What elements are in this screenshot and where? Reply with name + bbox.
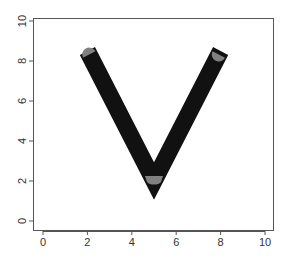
y-tick-label: 4 (16, 138, 28, 144)
x-tick-label: 0 (40, 236, 46, 248)
x-tick-label: 4 (129, 236, 135, 248)
x-tick-label: 2 (84, 236, 90, 248)
series-layer (82, 48, 225, 185)
y-tick-label: 8 (16, 58, 28, 64)
y-tick-label: 6 (16, 98, 28, 104)
y-axis: 0246810 (16, 15, 34, 224)
x-tick-label: 8 (218, 236, 224, 248)
y-tick-label: 10 (16, 15, 28, 27)
x-tick-label: 10 (259, 236, 271, 248)
y-tick-label: 2 (16, 178, 28, 184)
x-tick-label: 6 (173, 236, 179, 248)
thick-black-line (87, 51, 220, 181)
y-tick-label: 0 (16, 218, 28, 224)
plot-box (34, 19, 274, 231)
x-axis: 0246810 (40, 231, 271, 248)
line-plot: 0246810 0246810 (0, 0, 286, 261)
